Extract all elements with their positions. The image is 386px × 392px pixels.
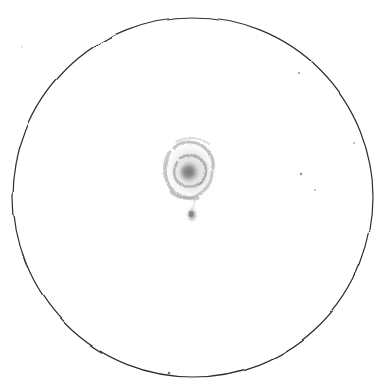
star-mark (314, 189, 316, 191)
companion-core (188, 211, 193, 217)
star-mark (300, 173, 302, 175)
star-mark (298, 72, 300, 74)
star-mark (21, 46, 23, 48)
star-mark (353, 142, 355, 144)
eyepiece-field-sketch (0, 0, 386, 392)
eyepiece-sketch-page: pencil-on-white-paper spiral galaxy comp… (0, 0, 386, 392)
star-mark (168, 372, 171, 375)
companion-galaxy (185, 206, 199, 224)
galaxy-nucleus (182, 166, 195, 178)
